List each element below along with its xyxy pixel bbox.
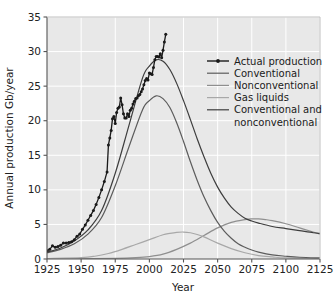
data-point-marker xyxy=(67,241,70,244)
data-point-marker xyxy=(147,78,150,81)
data-point-marker xyxy=(138,93,141,96)
y-tick-label: 20 xyxy=(28,114,41,126)
data-point-marker xyxy=(121,103,124,106)
data-point-marker xyxy=(112,115,115,118)
data-point-marker xyxy=(92,209,95,212)
legend-label: Gas liquids xyxy=(234,92,289,103)
data-point-marker xyxy=(48,248,51,251)
x-tick-label: 1950 xyxy=(68,263,95,275)
data-point-marker xyxy=(110,129,113,132)
data-point-marker xyxy=(142,83,145,86)
data-point-marker xyxy=(114,122,117,125)
data-point-marker xyxy=(97,196,100,199)
y-tick-label: 35 xyxy=(28,11,41,23)
data-point-marker xyxy=(108,137,111,140)
data-point-marker xyxy=(56,245,59,248)
data-point-marker xyxy=(151,73,154,76)
legend-label: Nonconventional xyxy=(234,80,318,91)
data-point-marker xyxy=(62,242,65,245)
data-point-marker xyxy=(132,103,135,106)
legend-marker-dot xyxy=(216,59,220,63)
data-point-marker xyxy=(73,238,76,241)
data-point-marker xyxy=(122,112,125,115)
y-tick-label: 5 xyxy=(34,218,41,230)
legend-label: nonconventional xyxy=(234,117,317,128)
data-point-marker xyxy=(157,56,160,59)
y-axis-title: Annual production Gb/year xyxy=(3,67,15,209)
data-point-marker xyxy=(86,219,89,222)
legend-label: Conventional and xyxy=(234,104,322,115)
x-tick-label: 2050 xyxy=(204,263,231,275)
data-point-marker xyxy=(106,170,109,173)
data-point-marker xyxy=(160,56,163,59)
data-point-marker xyxy=(118,105,121,108)
data-point-marker xyxy=(78,233,81,236)
data-point-marker xyxy=(119,96,122,99)
data-point-marker xyxy=(76,235,79,238)
data-point-marker xyxy=(152,66,155,69)
data-point-marker xyxy=(95,203,98,206)
x-tick-label: 2025 xyxy=(170,263,197,275)
production-line-chart: 05101520253035 1925195019752000202520502… xyxy=(0,0,336,302)
data-point-marker xyxy=(100,188,103,191)
data-point-marker xyxy=(125,116,128,119)
legend-label: Actual production xyxy=(234,56,322,67)
y-tick-label: 25 xyxy=(28,80,41,92)
legend-label: Conventional xyxy=(234,68,300,79)
data-point-marker xyxy=(70,240,73,243)
x-tick-label: 2075 xyxy=(238,263,265,275)
data-point-marker xyxy=(163,40,166,43)
data-point-marker xyxy=(115,111,118,114)
data-point-marker xyxy=(164,33,167,36)
x-tick-label: 1925 xyxy=(34,263,61,275)
data-point-marker xyxy=(84,224,87,227)
data-point-marker xyxy=(162,49,165,52)
x-tick-label: 2100 xyxy=(273,263,300,275)
x-axis-title: Year xyxy=(171,281,195,293)
chart-figure: 05101520253035 1925195019752000202520502… xyxy=(0,0,336,302)
x-tick-label: 2125 xyxy=(307,263,334,275)
data-point-marker xyxy=(159,52,162,55)
data-point-marker xyxy=(127,115,130,118)
data-point-marker xyxy=(141,87,144,90)
x-tick-label: 2000 xyxy=(136,263,163,275)
y-tick-label: 15 xyxy=(28,149,41,161)
data-point-marker xyxy=(59,244,62,247)
data-point-marker xyxy=(54,246,57,249)
data-point-marker xyxy=(81,228,84,231)
y-tick-label: 30 xyxy=(28,45,41,57)
data-point-marker xyxy=(126,112,129,115)
data-point-marker xyxy=(140,90,143,93)
data-point-marker xyxy=(65,242,68,245)
data-point-marker xyxy=(103,180,106,183)
data-point-marker xyxy=(107,143,110,146)
data-point-marker xyxy=(133,100,136,103)
data-point-marker xyxy=(153,58,156,61)
y-tick-label: 10 xyxy=(28,183,41,195)
data-point-marker xyxy=(89,214,92,217)
data-point-marker xyxy=(51,244,54,247)
data-point-marker xyxy=(130,107,133,110)
x-tick-label: 1975 xyxy=(102,263,129,275)
